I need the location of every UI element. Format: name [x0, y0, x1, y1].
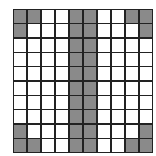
- grid-cell-filled: [70, 10, 82, 23]
- grid-cell-filled: [84, 67, 96, 80]
- grid-cell-empty: [56, 139, 68, 152]
- grid-cell-empty: [112, 10, 124, 23]
- grid-cell-empty: [56, 110, 68, 123]
- grid-cell-empty: [28, 24, 40, 37]
- grid-cell-filled: [84, 110, 96, 123]
- grid-cell-empty: [42, 110, 54, 123]
- grid-cell-filled: [14, 24, 26, 37]
- grid-cell-filled: [84, 53, 96, 66]
- grid-cell-empty: [56, 125, 68, 138]
- grid-cell-filled: [14, 10, 26, 23]
- grid-cell-empty: [42, 67, 54, 80]
- grid-cell-empty: [126, 82, 138, 95]
- grid-cell-empty: [56, 10, 68, 23]
- grid-cell-empty: [14, 67, 26, 80]
- grid-cell-filled: [84, 139, 96, 152]
- grid-cell-empty: [56, 96, 68, 109]
- grid-cell-filled: [84, 39, 96, 52]
- grid-cell-empty: [28, 110, 40, 123]
- grid-cell-empty: [14, 39, 26, 52]
- grid-cell-empty: [112, 139, 124, 152]
- grid-cell-filled: [70, 82, 82, 95]
- grid-cell-empty: [140, 39, 152, 52]
- grid-cell-empty: [14, 82, 26, 95]
- grid-cell-empty: [42, 39, 54, 52]
- grid-cell-empty: [140, 67, 152, 80]
- grid-cell-filled: [84, 10, 96, 23]
- grid-cell-empty: [56, 53, 68, 66]
- grid-cell-filled: [70, 39, 82, 52]
- pixel-grid: [13, 9, 153, 153]
- grid-cell-empty: [126, 96, 138, 109]
- grid-cell-empty: [56, 67, 68, 80]
- grid-cell-empty: [98, 10, 110, 23]
- grid-cell-empty: [14, 96, 26, 109]
- grid-cell-filled: [126, 10, 138, 23]
- grid-cell-empty: [140, 96, 152, 109]
- grid-cell-filled: [28, 139, 40, 152]
- grid-cell-filled: [14, 125, 26, 138]
- grid-cell-empty: [126, 125, 138, 138]
- grid-cell-filled: [70, 139, 82, 152]
- grid-cell-empty: [112, 110, 124, 123]
- grid-cell-filled: [84, 82, 96, 95]
- grid-cell-empty: [112, 125, 124, 138]
- grid-cell-empty: [112, 24, 124, 37]
- grid-cell-empty: [42, 82, 54, 95]
- grid-cell-empty: [42, 125, 54, 138]
- grid-cell-empty: [56, 39, 68, 52]
- grid-cell-empty: [126, 53, 138, 66]
- grid-cell-empty: [28, 82, 40, 95]
- grid-cell-empty: [126, 110, 138, 123]
- grid-cell-filled: [70, 53, 82, 66]
- grid-cell-empty: [140, 110, 152, 123]
- grid-cell-empty: [112, 53, 124, 66]
- grid-cell-empty: [28, 125, 40, 138]
- grid-cell-empty: [126, 39, 138, 52]
- grid-cell-empty: [98, 96, 110, 109]
- grid-cell-empty: [140, 53, 152, 66]
- grid-cell-empty: [42, 10, 54, 23]
- grid-cell-empty: [14, 110, 26, 123]
- grid-cell-empty: [98, 53, 110, 66]
- grid-cell-filled: [140, 10, 152, 23]
- grid-cell-empty: [126, 67, 138, 80]
- grid-cell-empty: [42, 139, 54, 152]
- grid-cell-filled: [84, 125, 96, 138]
- grid-cell-empty: [98, 139, 110, 152]
- grid-cell-empty: [28, 96, 40, 109]
- grid-cell-filled: [70, 24, 82, 37]
- grid-cell-empty: [112, 67, 124, 80]
- grid-cell-empty: [98, 82, 110, 95]
- grid-cell-filled: [126, 139, 138, 152]
- grid-cell-empty: [98, 24, 110, 37]
- grid-cell-filled: [70, 67, 82, 80]
- grid-cell-empty: [98, 110, 110, 123]
- grid-cell-empty: [28, 53, 40, 66]
- grid-cell-empty: [112, 82, 124, 95]
- grid-cell-filled: [140, 139, 152, 152]
- grid-cell-filled: [70, 96, 82, 109]
- grid-cell-empty: [98, 125, 110, 138]
- grid-cell-empty: [28, 39, 40, 52]
- grid-cell-empty: [42, 96, 54, 109]
- grid-cell-filled: [140, 125, 152, 138]
- grid-cell-filled: [28, 10, 40, 23]
- grid-cell-filled: [70, 110, 82, 123]
- grid-cell-empty: [42, 24, 54, 37]
- grid-cell-empty: [98, 39, 110, 52]
- grid-cell-empty: [140, 82, 152, 95]
- grid-cell-empty: [42, 53, 54, 66]
- grid-cell-empty: [14, 53, 26, 66]
- grid-cell-filled: [84, 24, 96, 37]
- grid-cell-filled: [84, 96, 96, 109]
- grid-cell-filled: [14, 139, 26, 152]
- grid-cell-empty: [28, 67, 40, 80]
- grid-cell-empty: [126, 24, 138, 37]
- grid-cell-empty: [56, 82, 68, 95]
- grid-cell-filled: [70, 125, 82, 138]
- grid-cell-empty: [98, 67, 110, 80]
- grid-cell-empty: [112, 96, 124, 109]
- grid-cell-empty: [112, 39, 124, 52]
- grid-cell-empty: [56, 24, 68, 37]
